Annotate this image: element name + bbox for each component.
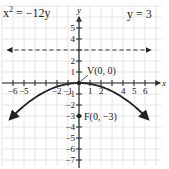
x-tick-label: 1 — [88, 86, 93, 96]
vertex-point — [77, 81, 81, 85]
y-tick-label: −5 — [65, 133, 75, 143]
y-tick-label: 4 — [71, 34, 76, 44]
y-tick-label: −4 — [65, 122, 75, 132]
x-tick-label: 6 — [143, 86, 148, 96]
vertex-label: V(0, 0) — [87, 65, 116, 77]
focus-point — [77, 114, 81, 118]
y-axis-label: y — [76, 5, 81, 15]
x-tick-label: 5 — [132, 86, 137, 96]
y-tick-label: 2 — [71, 56, 76, 66]
y-tick-label: 5 — [71, 23, 76, 33]
y-tick-label: 1 — [71, 67, 76, 77]
equation-label: x2 = −12y — [3, 6, 51, 19]
y-tick-label: −2 — [65, 100, 75, 110]
y-tick-label: −1 — [65, 89, 75, 99]
parabola-chart: xy−6−5−2−1124565421−1−2−3−4−5−6−7V(0, 0)… — [0, 0, 169, 169]
directrix-label: y = 3 — [127, 8, 152, 20]
focus-label: F(0, −3) — [84, 111, 117, 123]
y-tick-label: −6 — [65, 144, 75, 154]
x-tick-label: −6 — [8, 86, 18, 96]
x-tick-label: 4 — [121, 86, 126, 96]
y-tick-label: −3 — [65, 111, 75, 121]
plot-area: xy−6−5−2−1124565421−1−2−3−4−5−6−7V(0, 0)… — [0, 0, 169, 169]
x-axis-label: x — [161, 78, 166, 88]
y-tick-label: −7 — [65, 155, 75, 165]
x-tick-label: −5 — [19, 86, 29, 96]
